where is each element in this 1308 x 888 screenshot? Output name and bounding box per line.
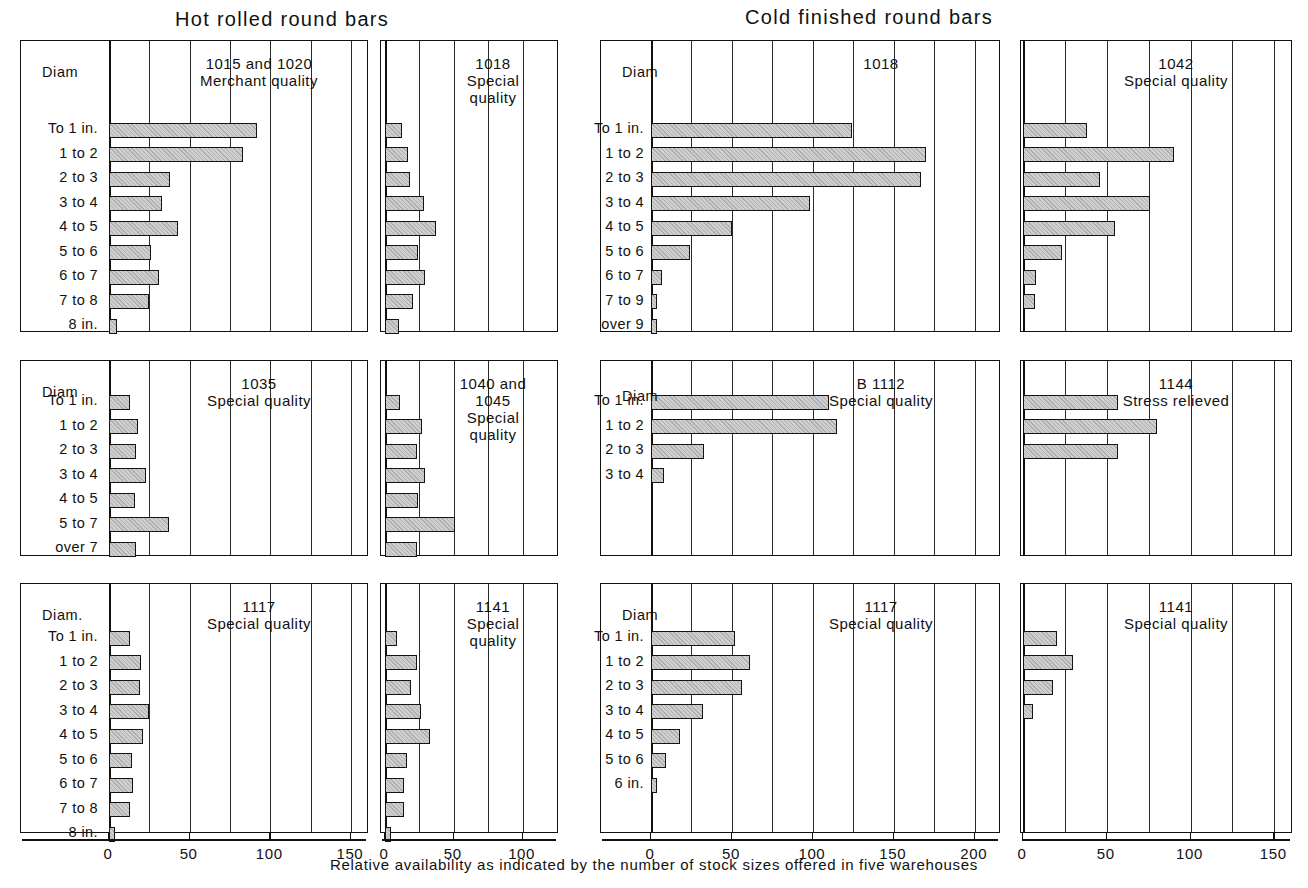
- chart-panel-cold-1117: 1117 Special quality: [600, 583, 1000, 833]
- category-label: 4 to 5: [10, 490, 98, 506]
- category-label: 1 to 2: [556, 145, 644, 161]
- category-label: 6 in.: [556, 775, 644, 791]
- bar: [385, 294, 413, 309]
- bar: [1023, 444, 1118, 459]
- x-axis-tick: [893, 832, 894, 839]
- x-axis-tick-label: 150: [1243, 845, 1303, 862]
- category-label: 4 to 5: [10, 218, 98, 234]
- category-label: 4 to 5: [10, 726, 98, 742]
- x-axis-tick: [812, 832, 813, 839]
- bar: [109, 704, 149, 719]
- bar: [385, 542, 417, 557]
- bar: [109, 147, 243, 162]
- bar: [651, 172, 921, 187]
- gridline: [1274, 361, 1275, 555]
- x-axis-tick: [384, 832, 385, 839]
- panel-title: 1015 and 1020 Merchant quality: [164, 55, 354, 89]
- bar: [651, 196, 810, 211]
- bar: [109, 655, 141, 670]
- category-label: 7 to 8: [10, 800, 98, 816]
- chart-panel-hot-1141: 1141 Special quality: [380, 583, 558, 833]
- x-axis-line: [1022, 839, 1290, 841]
- x-axis-tick: [974, 832, 975, 839]
- category-label: 2 to 3: [10, 441, 98, 457]
- category-label: 4 to 5: [556, 218, 644, 234]
- bar: [385, 802, 404, 817]
- bar: [651, 444, 704, 459]
- bar: [651, 753, 666, 768]
- category-label: To 1 in.: [556, 120, 644, 136]
- x-axis-tick: [453, 832, 454, 839]
- bar: [385, 631, 397, 646]
- category-label: 3 to 4: [556, 194, 644, 210]
- category-label: 2 to 3: [556, 441, 644, 457]
- category-label: 3 to 4: [10, 702, 98, 718]
- bar: [385, 123, 402, 138]
- group-title-cold-finished: Cold finished round bars: [745, 6, 993, 29]
- bar: [1023, 172, 1100, 187]
- bar: [651, 221, 732, 236]
- bar: [385, 221, 436, 236]
- x-axis-tick-label: 100: [239, 845, 299, 862]
- plot-area: 1040 and 1045 Special quality: [381, 361, 557, 555]
- gridline: [772, 361, 773, 555]
- bar: [385, 753, 407, 768]
- category-label: To 1 in.: [10, 120, 98, 136]
- bar: [109, 245, 151, 260]
- category-label: 3 to 4: [556, 702, 644, 718]
- x-axis-tick-label: 50: [1076, 845, 1136, 862]
- bar: [385, 147, 408, 162]
- x-axis-tick-label: 100: [782, 845, 842, 862]
- category-label: 8 in.: [10, 824, 98, 840]
- bar: [109, 172, 170, 187]
- panel-title: 1144 Stress relieved: [1081, 375, 1271, 409]
- bar: [651, 631, 735, 646]
- bar: [109, 542, 136, 557]
- plot-area: 1015 and 1020 Merchant quality: [21, 41, 367, 331]
- category-label: 3 to 4: [556, 466, 644, 482]
- category-label: To 1 in.: [556, 628, 644, 644]
- x-axis-tick: [1190, 832, 1191, 839]
- bar: [1023, 221, 1115, 236]
- chart-figure: Hot rolled round bars Cold finished roun…: [0, 0, 1308, 888]
- plot-area: 1141 Special quality: [381, 584, 557, 832]
- chart-panel-hot-1018: 1018 Special quality: [380, 40, 558, 332]
- category-label: 2 to 3: [10, 677, 98, 693]
- x-axis-line: [382, 839, 556, 841]
- bar: [651, 655, 750, 670]
- bar: [109, 753, 132, 768]
- chart-panel-cold-1042: 1042 Special quality: [1020, 40, 1292, 332]
- panel-title: 1141 Special quality: [1081, 598, 1271, 632]
- panel-title: 1042 Special quality: [1081, 55, 1271, 89]
- category-label: 1 to 2: [556, 653, 644, 669]
- bar: [1023, 419, 1157, 434]
- x-axis-tick-label: 50: [159, 845, 219, 862]
- category-label: To 1 in.: [10, 628, 98, 644]
- gridline: [772, 584, 773, 832]
- gridline: [1065, 584, 1066, 832]
- x-axis-tick: [1106, 832, 1107, 839]
- bar: [651, 778, 657, 793]
- x-axis-tick: [189, 832, 190, 839]
- x-axis-tick: [731, 832, 732, 839]
- x-axis-tick-label: 100: [1160, 845, 1220, 862]
- bar: [109, 802, 130, 817]
- bar: [109, 319, 117, 334]
- category-label: 5 to 7: [10, 515, 98, 531]
- bar: [109, 221, 178, 236]
- bar: [109, 395, 130, 410]
- chart-panel-hot-1015-1020: 1015 and 1020 Merchant quality: [20, 40, 368, 332]
- gridline: [1274, 41, 1275, 331]
- x-axis-tick: [108, 832, 109, 839]
- gridline: [732, 584, 733, 832]
- x-axis-tick-label: 0: [992, 845, 1052, 862]
- gridline: [934, 41, 935, 331]
- gridline: [149, 584, 150, 832]
- bar: [385, 704, 421, 719]
- bar: [651, 123, 852, 138]
- bar: [385, 196, 424, 211]
- category-label: To 1 in.: [10, 392, 98, 408]
- bar: [651, 319, 657, 334]
- x-axis-tick: [350, 832, 351, 839]
- bar: [109, 729, 143, 744]
